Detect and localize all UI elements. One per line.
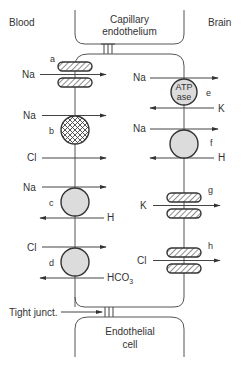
- ion-cl-d: Cl: [27, 242, 36, 253]
- letter-b: b: [49, 126, 54, 136]
- ion-h-c: H: [107, 212, 114, 223]
- ion-h-f: H: [218, 152, 225, 163]
- transporter-b-nacl-cotransporter: b Na Cl: [23, 110, 106, 163]
- ion-na-c: Na: [23, 182, 36, 193]
- ion-k-e: K: [218, 103, 225, 114]
- brain-label: Brain: [208, 17, 231, 28]
- ion-na-e: Na: [133, 72, 146, 83]
- endothelial-cell-lower: [75, 317, 184, 357]
- ion-cl-b: Cl: [27, 152, 36, 163]
- ion-na-f: Na: [133, 123, 146, 134]
- endothelial-label-line2: cell: [122, 339, 137, 350]
- ion-cl-h: Cl: [137, 255, 146, 266]
- ion-na-b: Na: [23, 110, 36, 121]
- bbb-transport-diagram: Blood Brain Capillary endothelium a Na b…: [0, 0, 244, 367]
- atpase-label-line2: ase: [177, 92, 192, 102]
- capillary-label-line1: Capillary: [110, 14, 149, 25]
- letter-f: f: [210, 138, 213, 148]
- transporter-h-cl-channel: h Cl: [137, 241, 220, 273]
- capillary-label-line2: endothelium: [102, 26, 156, 37]
- letter-c: c: [49, 198, 54, 208]
- transporter-g-k-channel: g K: [140, 185, 220, 218]
- letter-d: d: [49, 258, 54, 268]
- ion-na-a: Na: [22, 69, 35, 80]
- blood-label: Blood: [9, 17, 35, 28]
- transporter-c-na-h-exchanger: c Na H: [23, 182, 114, 223]
- transporter-f-na-h-exchanger: f Na H: [133, 123, 225, 163]
- letter-e: e: [206, 88, 211, 98]
- tight-junction-label: Tight junct.: [9, 307, 58, 318]
- letter-a: a: [50, 54, 55, 64]
- ion-k-g: K: [140, 200, 147, 211]
- endothelial-label-line1: Endothelial: [105, 326, 154, 337]
- transporter-e-na-k-atpase: ATP ase e Na K: [133, 72, 225, 114]
- tight-junction-bottom: [61, 307, 113, 317]
- transporter-d-cl-hco3-exchanger: d Cl HCO3: [27, 242, 133, 285]
- atpase-label-line1: ATP: [176, 82, 193, 92]
- ion-hco3-d: HCO3: [107, 272, 133, 285]
- letter-g: g: [208, 185, 213, 195]
- transporter-a-na-channel: a Na: [22, 54, 106, 87]
- tight-junction-top: [101, 44, 115, 54]
- letter-h: h: [208, 241, 213, 251]
